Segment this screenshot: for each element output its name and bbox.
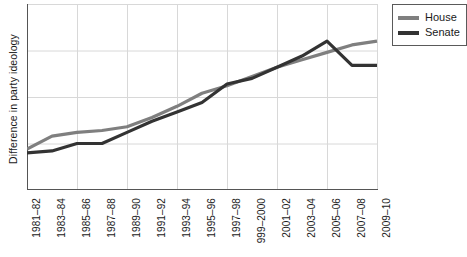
- x-tick-label: 1981–82: [31, 198, 42, 257]
- line-chart-svg: [27, 4, 378, 190]
- x-tick-label: 1991–92: [156, 198, 167, 257]
- y-axis-title: Difference in party ideology: [7, 9, 19, 189]
- x-tick-label: 2009–10: [381, 198, 392, 257]
- x-tick-label: 1987–88: [106, 198, 117, 257]
- x-tick-label: 1997–98: [231, 198, 242, 257]
- x-tick-label: 2005–06: [331, 198, 342, 257]
- x-tick-label: 2003–04: [306, 198, 317, 257]
- x-tick-label: 1993–94: [181, 198, 192, 257]
- x-tick-label: 1985–86: [81, 198, 92, 257]
- legend-label-house: House: [425, 12, 457, 23]
- x-tick-label: 2001–02: [281, 198, 292, 257]
- legend-swatch-senate: [398, 31, 419, 35]
- series-line-house: [27, 41, 377, 149]
- legend-label-senate: Senate: [425, 27, 460, 38]
- chart-legend: House Senate: [392, 4, 467, 46]
- plot-area: [27, 4, 378, 190]
- x-tick-label: 1995–96: [206, 198, 217, 257]
- legend-item-house[interactable]: House: [398, 10, 460, 25]
- legend-item-senate[interactable]: Senate: [398, 25, 460, 40]
- legend-swatch-house: [398, 16, 419, 20]
- x-tick-label: 999–2000: [256, 198, 267, 257]
- x-tick-label: 1989–90: [131, 198, 142, 257]
- x-tick-label: 1983–84: [56, 198, 67, 257]
- x-tick-label: 2007–08: [356, 198, 367, 257]
